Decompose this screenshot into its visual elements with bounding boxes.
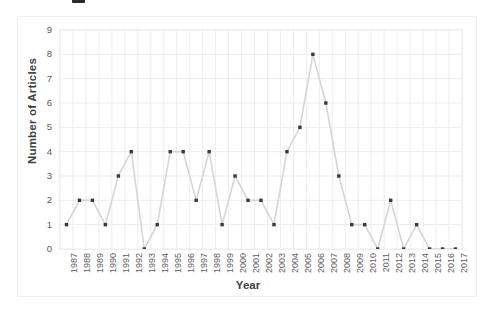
x-tick-label: 1995 (174, 253, 183, 273)
x-tick-label: 2002 (265, 253, 274, 273)
y-tick-label: 2 (30, 196, 52, 206)
x-tick-label: 1993 (148, 253, 157, 273)
x-tick-label: 1996 (187, 253, 196, 273)
x-axis-title: Year (18, 279, 478, 291)
x-tick-label: 2001 (252, 253, 261, 273)
x-tick-label: 2011 (382, 253, 391, 272)
chart-screenshot: Number of Articles 0123456789 1987198819… (0, 0, 493, 323)
y-axis-tick-labels: 0123456789 (30, 29, 52, 250)
cropped-title-remnant (72, 0, 85, 3)
x-tick-label: 2016 (447, 253, 456, 273)
y-tick-label: 0 (30, 244, 52, 254)
x-tick-label: 1992 (135, 253, 144, 273)
x-tick-label: 2014 (421, 253, 430, 273)
chart-frame: Number of Articles 0123456789 1987198819… (17, 16, 477, 297)
x-tick-label: 2015 (434, 253, 443, 273)
y-tick-label: 9 (30, 25, 52, 35)
line-chart-svg (60, 30, 462, 249)
y-tick-label: 4 (30, 147, 52, 157)
x-tick-label: 1999 (226, 253, 235, 273)
x-tick-label: 1989 (96, 253, 105, 273)
x-tick-label: 1988 (83, 253, 92, 273)
x-tick-label: 2017 (460, 253, 469, 273)
y-tick-label: 7 (30, 74, 52, 84)
y-tick-label: 6 (30, 98, 52, 108)
x-tick-label: 1987 (70, 253, 79, 273)
x-tick-label: 1990 (109, 253, 118, 273)
x-tick-label: 2005 (304, 253, 313, 273)
x-tick-label: 2007 (330, 253, 339, 273)
x-tick-label: 2009 (356, 253, 365, 273)
x-tick-label: 2004 (291, 253, 300, 273)
x-tick-label: 1991 (122, 253, 131, 273)
y-tick-label: 3 (30, 171, 52, 181)
plot-area (59, 29, 463, 250)
x-tick-label: 2010 (369, 253, 378, 273)
x-tick-label: 1997 (200, 253, 209, 273)
x-tick-label: 2006 (317, 253, 326, 273)
y-tick-label: 8 (30, 50, 52, 60)
x-tick-label: 2013 (408, 253, 417, 273)
x-tick-label: 1998 (213, 253, 222, 273)
y-tick-label: 5 (30, 123, 52, 133)
x-tick-label: 1994 (161, 253, 170, 273)
y-tick-label: 1 (30, 220, 52, 230)
x-tick-label: 2012 (395, 253, 404, 273)
x-tick-label: 2000 (239, 253, 248, 273)
x-tick-label: 2003 (278, 253, 287, 273)
x-tick-label: 2008 (343, 253, 352, 273)
